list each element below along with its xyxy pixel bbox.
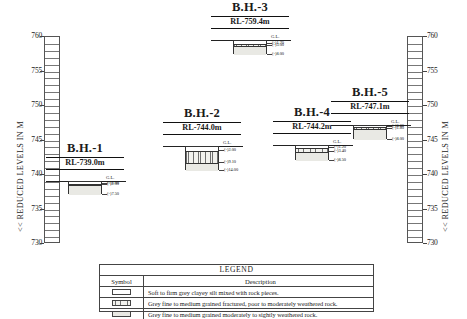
borehole-column (185, 146, 219, 170)
stratum-layer-weath (186, 163, 218, 171)
legend-symbol-cell (100, 298, 144, 308)
scale-rung (408, 175, 422, 176)
stratum-layer-weath (234, 46, 266, 55)
legend-description-text: Grey fine to medium grained moderately t… (148, 311, 317, 318)
depth-label: (-)2.00 (224, 147, 236, 152)
rl-tick-label: 760 (8, 31, 42, 41)
legend-title: LEGEND (100, 265, 373, 276)
rl-tick-mark (423, 105, 427, 106)
scale-rung (45, 44, 59, 45)
legend-box: LEGENDSymbolDescriptionSoft to firm grey… (99, 264, 374, 312)
rl-tick-mark (423, 71, 427, 72)
scale-rung (408, 106, 422, 107)
borehole-rl-label: RL-744.2m (273, 122, 351, 134)
scale-rung (408, 65, 422, 66)
rl-tick-label: 750 (427, 100, 461, 110)
stratum-layer-weath (296, 152, 328, 161)
rl-tick-label: 735 (8, 204, 42, 214)
scale-rung (408, 223, 422, 224)
scale-rung (408, 216, 422, 217)
legend-header-symbol-text: Symbol (111, 278, 132, 285)
scale-rung (408, 78, 422, 79)
rl-tick-mark (423, 243, 427, 244)
borehole-column (68, 181, 102, 194)
depth-label: (-)3.40 (334, 148, 346, 153)
rl-scale-right (407, 36, 423, 243)
rl-tick-mark (40, 140, 44, 141)
legend-row: Grey fine to medium grained fractured, p… (100, 298, 373, 309)
legend-header-symbol: Symbol (100, 276, 144, 286)
rl-tick-mark (40, 174, 44, 175)
scale-rung (408, 44, 422, 45)
axis-title-right: << REDUCED LEVELS IN M (441, 121, 450, 232)
scale-rung (408, 141, 422, 142)
legend-header-description-text: Description (245, 278, 276, 285)
scale-rung (408, 182, 422, 183)
rl-tick-label: 760 (427, 31, 461, 41)
scale-rung (45, 78, 59, 79)
depth-label: (-)8.50 (334, 157, 346, 162)
rl-tick-mark (40, 71, 44, 72)
scale-rung (408, 92, 422, 93)
scale-rung (408, 203, 422, 204)
scale-rung (408, 196, 422, 197)
scale-rung (45, 216, 59, 217)
scale-rung (45, 92, 59, 93)
legend-symbol-cell (100, 309, 144, 319)
depth-label: (-)7.50 (107, 191, 119, 196)
scale-rung (408, 134, 422, 135)
depth-label: (-)14.00 (224, 167, 238, 172)
legend-description-text: Soft to firm grey clayey silt mixed with… (148, 289, 278, 296)
scale-rung (408, 189, 422, 190)
stratum-layer-frac (186, 151, 218, 163)
rl-scale-left (44, 36, 60, 243)
borehole-rl-label: RL-759.4m (211, 17, 289, 29)
legend-swatch-silt (112, 289, 131, 295)
scale-rung (45, 65, 59, 66)
borehole-column (353, 125, 387, 139)
legend-swatch-weath (112, 311, 131, 317)
scale-rung (408, 113, 422, 114)
rl-tick-label: 730 (427, 238, 461, 248)
borehole-rl-label: RL-739.0m (46, 158, 124, 170)
stratum-layer-weath (69, 185, 101, 194)
scale-rung (45, 85, 59, 86)
scale-rung (45, 72, 59, 73)
borehole-rl-label: RL-744.0m (163, 123, 241, 135)
scale-rung (45, 223, 59, 224)
scale-rung (408, 168, 422, 169)
scale-rung (408, 210, 422, 211)
rl-tick-mark (423, 36, 427, 37)
scale-rung (45, 230, 59, 231)
rl-tick-label: 755 (427, 66, 461, 76)
legend-header-description: Description (144, 276, 373, 286)
scale-rung (45, 196, 59, 197)
scale-rung (45, 210, 59, 211)
legend-swatch-frac (112, 300, 131, 306)
scale-rung (408, 147, 422, 148)
rl-tick-mark (40, 209, 44, 210)
borehole-title: B.H.-5 (331, 85, 409, 102)
legend-description-text: Grey fine to medium grained fractured, p… (148, 300, 337, 307)
legend-description-cell: Grey fine to medium grained fractured, p… (144, 298, 373, 308)
depth-label: (-)3.00 (272, 42, 284, 47)
scale-rung (45, 134, 59, 135)
rl-tick-label: 730 (8, 238, 42, 248)
scale-rung (408, 237, 422, 238)
scale-rung (408, 72, 422, 73)
ground-level-label: G.L. (223, 140, 231, 145)
scale-rung (45, 175, 59, 176)
rl-tick-mark (40, 105, 44, 106)
scale-rung (408, 127, 422, 128)
rl-tick-label: 740 (8, 169, 42, 179)
legend-symbol-cell (100, 287, 144, 297)
borehole-title: B.H.-1 (46, 141, 124, 158)
rl-tick-label: 750 (8, 100, 42, 110)
scale-rung (45, 203, 59, 204)
rl-tick-mark (40, 36, 44, 37)
scale-rung (408, 120, 422, 121)
scale-rung (408, 230, 422, 231)
scale-rung (45, 237, 59, 238)
axis-title-left: << REDUCED LEVELS IN M (16, 121, 25, 232)
